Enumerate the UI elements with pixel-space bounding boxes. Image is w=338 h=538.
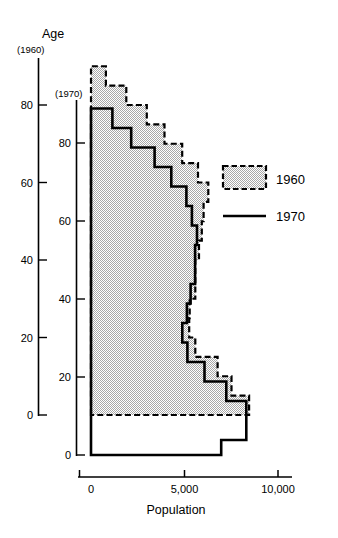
y-1970-tick-80: 80 — [59, 137, 71, 149]
x-tick-5000: 5,000 — [171, 483, 199, 495]
y-1970-tick-40: 40 — [59, 293, 71, 305]
y-1960-tick-20: 20 — [21, 332, 33, 344]
y-1970-tick-60: 60 — [59, 215, 71, 227]
population-axis-title: Population — [146, 503, 205, 517]
legend-label-1970: 1970 — [276, 209, 305, 224]
population-pyramid-figure: Age (1960) 80 60 40 20 0 (1970) — [0, 0, 338, 538]
axis-1970-caption: (1970) — [55, 88, 82, 99]
y-1960-tick-0: 0 — [27, 409, 33, 421]
y-1960-tick-40: 40 — [21, 254, 33, 266]
y-1970-tick-0: 0 — [65, 449, 71, 461]
legend-label-1960: 1960 — [276, 172, 305, 187]
y-1960-tick-80: 80 — [21, 99, 33, 111]
axis-1960-caption: (1960) — [17, 44, 44, 55]
population-pyramid-chart: Age (1960) 80 60 40 20 0 (1970) — [0, 0, 338, 538]
age-axis-title: Age — [42, 27, 64, 41]
x-tick-10000: 10,000 — [261, 483, 295, 495]
x-tick-0: 0 — [88, 483, 94, 495]
legend-swatch-1960 — [223, 166, 266, 189]
y-1970-tick-20: 20 — [59, 371, 71, 383]
y-1960-tick-60: 60 — [21, 177, 33, 189]
